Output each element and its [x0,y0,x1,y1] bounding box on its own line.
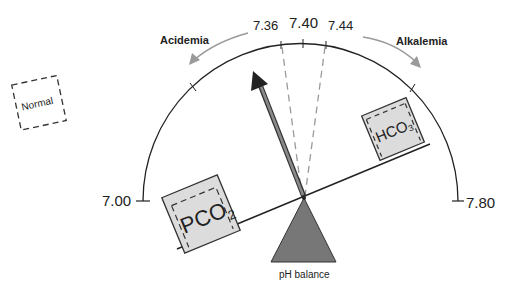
label-7-80: 7.80 [466,194,495,211]
normal-label: Normal [20,95,54,112]
normal-range-right-line [305,47,325,196]
normal-range-left-line [282,47,302,196]
label-7-44: 7.44 [328,18,353,33]
ph-balance-diagram: 7.00 7.80 7.36 7.40 7.44 Acidemia Alkale… [0,0,511,289]
label-7-36: 7.36 [253,18,278,33]
ph-pointer-fill [260,84,303,195]
fulcrum-triangle [271,198,336,262]
label-7-40: 7.40 [289,14,318,31]
acidemia-label: Acidemia [160,34,210,46]
normal-legend-box: Normal [12,76,67,131]
acidemia-arrowhead-icon [189,53,200,65]
alkalemia-label: Alkalemia [396,35,448,47]
pivot-point [302,196,306,200]
fulcrum-label: pH balance [279,269,330,280]
pco2-weight: PCO2 [162,174,242,253]
label-7-00: 7.00 [102,192,131,209]
